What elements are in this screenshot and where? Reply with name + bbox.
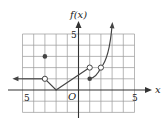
x-axis-arrow-icon	[145, 87, 152, 93]
open-point	[98, 65, 103, 70]
filled-point	[87, 77, 92, 82]
x-axis-label: x	[155, 84, 161, 95]
open-point	[42, 76, 47, 81]
x-tick-label-5: 5	[132, 93, 138, 103]
origin-label: O	[68, 91, 76, 102]
axes	[8, 21, 152, 118]
function-graph: f(x) x O 5 5 5	[0, 0, 166, 129]
open-point	[87, 65, 92, 70]
function-curves	[12, 22, 114, 90]
left-arrow-icon	[12, 76, 18, 81]
filled-point	[43, 54, 48, 59]
curve-arrow-icon	[110, 22, 115, 28]
y-axis-label: f(x)	[69, 9, 87, 20]
x-tick-label-neg5: 5	[24, 93, 30, 103]
y-axis-arrow-icon	[76, 21, 82, 28]
y-tick-label-5: 5	[71, 30, 77, 40]
